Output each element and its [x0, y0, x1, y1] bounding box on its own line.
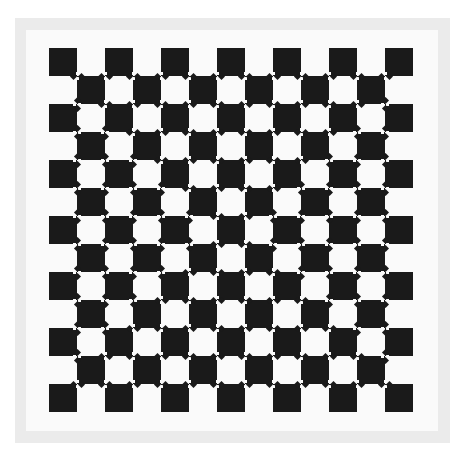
checkerboard	[0, 0, 466, 460]
